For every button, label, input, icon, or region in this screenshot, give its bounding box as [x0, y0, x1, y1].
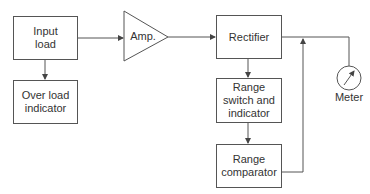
range-switch-label: Range switch and indicator	[223, 81, 275, 120]
rectifier-label: Rectifier	[229, 31, 269, 44]
rectifier-block: Rectifier	[216, 15, 282, 59]
input-load-block: Input load	[13, 16, 78, 60]
arrow-comparator-feedback	[281, 39, 303, 172]
range-comparator-label: Range comparator	[221, 153, 277, 179]
meter-label: Meter	[329, 91, 369, 103]
overload-indicator-label: Over load indicator	[22, 89, 70, 115]
overload-indicator-block: Over load indicator	[13, 80, 78, 124]
line-rectifier-to-meter	[281, 37, 349, 66]
amplifier-label: Amp.	[126, 30, 160, 42]
input-load-label: Input load	[33, 25, 57, 51]
range-comparator-block: Range comparator	[216, 144, 282, 188]
range-switch-block: Range switch and indicator	[216, 78, 282, 123]
